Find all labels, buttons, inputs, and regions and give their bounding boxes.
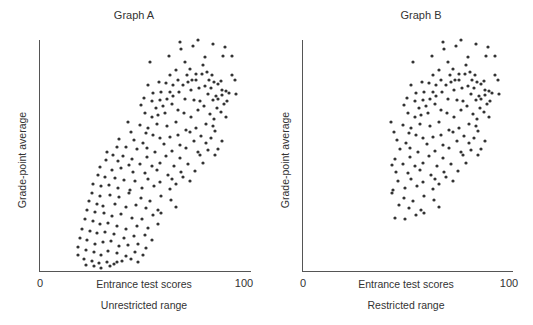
graph-b-point (446, 60, 449, 63)
graph-a-point (103, 175, 106, 178)
graph-b-point (433, 177, 436, 180)
graph-a-point (146, 126, 149, 129)
graph-b-point (493, 54, 496, 57)
graph-a-point (230, 73, 233, 76)
graph-a-point (76, 245, 79, 248)
graph-b-point (478, 106, 481, 109)
graph-b-point (462, 134, 465, 137)
graph-a-point (179, 47, 182, 50)
graph-a-point (115, 145, 118, 148)
graph-b-point (474, 124, 477, 127)
graph-a-point (213, 153, 216, 156)
graph-b-point (442, 47, 445, 50)
graph-a-point (193, 169, 196, 172)
graph-a-point (183, 60, 186, 63)
graph-a-point (198, 99, 201, 102)
graph-a-point (188, 67, 191, 70)
graph-a-point (144, 131, 147, 134)
graph-b-point (455, 139, 458, 142)
graph-a-point (107, 183, 110, 186)
graph-a-point (215, 106, 218, 109)
graph-b-point (488, 99, 491, 102)
graph-a-point (171, 94, 174, 97)
graph-a-point (209, 136, 212, 139)
graph-b-point (392, 130, 395, 133)
graph-b-point (395, 138, 398, 141)
graph-a-point (143, 233, 146, 236)
graph-a-point (194, 126, 197, 129)
graph-a-point (82, 257, 85, 260)
graph-b-point (433, 149, 436, 152)
graph-b-point (452, 88, 455, 91)
graph-b-point (472, 136, 475, 139)
graph-a-point (113, 176, 116, 179)
graph-b-point (403, 186, 406, 189)
graph-b-point (493, 73, 496, 76)
graph-b-point (482, 110, 485, 113)
graph-a-point (178, 156, 181, 159)
graph-a-point (178, 40, 181, 43)
graph-b-point (407, 206, 410, 209)
graph-a-point (191, 44, 194, 47)
graph-a-point (76, 253, 79, 256)
graph-b-point (446, 97, 449, 100)
graph-a-point (124, 145, 127, 148)
graph-b-point (427, 154, 430, 157)
graph-b-point (455, 98, 458, 101)
graph-b-point (482, 79, 485, 82)
graph-b-point (454, 44, 457, 47)
graph-a-point (99, 266, 102, 269)
graph-a-point (119, 166, 122, 169)
graph-a-point (85, 208, 88, 211)
graph-b-point (467, 141, 470, 144)
graph-a-point (213, 129, 216, 132)
graph-b-point (439, 78, 442, 81)
graph-b-point (469, 92, 472, 95)
graph-a-point (152, 184, 155, 187)
graph-a-point (84, 263, 87, 266)
graph-a-point (150, 115, 153, 118)
graph-b-point (457, 72, 460, 75)
graph-b-point (419, 208, 422, 211)
graph-b-point (421, 98, 424, 101)
graph-b-point (475, 117, 478, 120)
graph-b-point (437, 205, 440, 208)
graph-b-point (418, 168, 421, 171)
graph-a-point (166, 173, 169, 176)
graph-b-point (487, 89, 490, 92)
graph-a-point (159, 211, 162, 214)
graph-a-point (151, 91, 154, 94)
graph-a-point (117, 244, 120, 247)
graph-a-point (146, 226, 149, 229)
graph-a-point (223, 45, 226, 48)
graph-b-point (464, 63, 467, 66)
graph-a-point (219, 79, 222, 82)
graph-b-point (459, 38, 462, 41)
graph-b-point (476, 129, 479, 132)
graph-a-point (159, 90, 162, 93)
graph-a-point (186, 80, 189, 83)
graph-a-point (150, 164, 153, 167)
graph-b-point (461, 99, 464, 102)
graph-b-point (475, 80, 478, 83)
graph-b-point (433, 102, 436, 105)
graph-a-point (216, 147, 219, 150)
graph-a-point (194, 72, 197, 75)
graph-a-point (178, 143, 181, 146)
graph-b-point (418, 122, 421, 125)
graph-a-point (140, 217, 143, 220)
graph-a-point (154, 106, 157, 109)
graph-a-point (92, 264, 95, 267)
graph-a-point (85, 238, 88, 241)
graph-a-point (93, 210, 96, 213)
graph-a-point (151, 133, 154, 136)
graph-a-point (144, 246, 147, 249)
graph-b-point (393, 216, 396, 219)
graph-a-point (112, 232, 115, 235)
graph-a-point (103, 230, 106, 233)
graph-b-point (409, 83, 412, 86)
graph-a-point (99, 253, 102, 256)
graph-a-point (133, 179, 136, 182)
graph-a-point (95, 231, 98, 234)
graph-a-point (194, 78, 197, 81)
